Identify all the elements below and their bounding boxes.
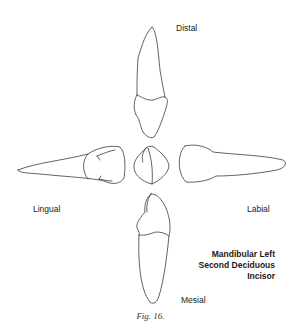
mesial-view-tooth	[137, 194, 170, 303]
tooth-title-line-2: Second Deciduous	[198, 260, 275, 271]
tooth-title-line-1: Mandibular Left	[198, 249, 275, 260]
figure-caption: Fig. 16.	[0, 311, 301, 321]
label-distal: Distal	[176, 23, 197, 33]
incisal-view-tooth	[134, 146, 169, 184]
label-mesial: Mesial	[181, 295, 206, 305]
distal-view-tooth	[134, 27, 167, 138]
label-labial: Labial	[247, 204, 270, 214]
label-lingual: Lingual	[33, 204, 60, 214]
figure: Distal Lingual Labial Mesial Mandibular …	[0, 0, 301, 331]
tooth-title-line-3: Incisor	[198, 271, 275, 282]
labial-view-tooth	[179, 145, 285, 182]
lingual-view-tooth	[18, 146, 125, 183]
tooth-title: Mandibular Left Second Deciduous Incisor	[198, 249, 275, 282]
